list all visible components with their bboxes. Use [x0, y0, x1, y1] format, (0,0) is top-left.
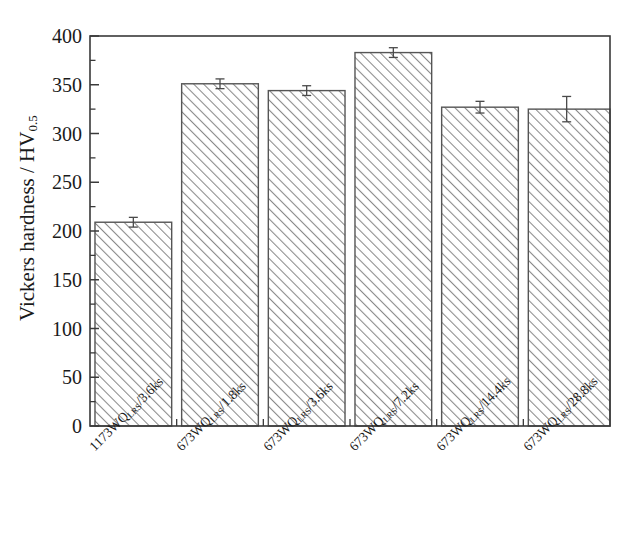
y-tick-label: 200 — [36, 221, 82, 241]
bar — [268, 91, 345, 426]
y-tick-label: 300 — [36, 124, 82, 144]
bar-series — [95, 53, 610, 426]
chart-figure: Vickers hardness / HV0.5 050100150200250… — [0, 0, 641, 552]
y-tick-label: 0 — [36, 416, 82, 436]
plot-canvas — [0, 0, 641, 552]
y-tick-label: 100 — [36, 319, 82, 339]
y-tick-label: 150 — [36, 270, 82, 290]
bar — [528, 109, 610, 426]
y-tick-label: 400 — [36, 26, 82, 46]
y-tick-label: 250 — [36, 172, 82, 192]
y-tick-label: 50 — [36, 367, 82, 387]
bar — [182, 84, 259, 426]
bar — [355, 53, 432, 426]
y-tick-label: 350 — [36, 75, 82, 95]
